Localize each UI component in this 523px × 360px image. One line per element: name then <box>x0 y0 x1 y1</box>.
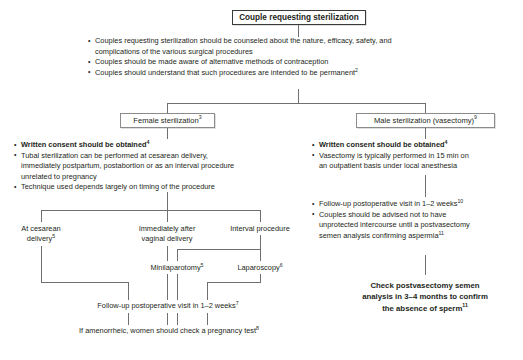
connector-split-horizontal <box>167 103 426 104</box>
bullet-text: Couples should understand that such proc… <box>95 68 355 77</box>
male-sterilization-label: Male sterilization (vasectomy)9 <box>374 116 477 125</box>
connector-female-bullets-stem <box>167 192 168 210</box>
option-line: delivery <box>27 234 52 243</box>
footnote-marker: 4 <box>445 139 448 145</box>
flowchart-canvas: Couple requesting sterilization Couples … <box>0 0 523 360</box>
footnote-marker: 5 <box>52 233 55 239</box>
list-item: Vasectomy is typically performed in 15 m… <box>312 151 522 172</box>
footnote-marker: 11 <box>462 302 467 308</box>
list-item: Written consent should be obtained4 <box>312 140 522 151</box>
footnote-marker: 8 <box>256 325 259 331</box>
connector-followup-drop-a <box>128 313 129 325</box>
bullet-line: immediately postpartum, postabortion or … <box>21 161 294 172</box>
conclusion-line: Check postvasectomy semen <box>370 281 479 290</box>
bullet-line: Tubal sterilization can be performed at … <box>21 151 294 162</box>
footnote-marker: 2 <box>355 66 358 72</box>
male-box-text: Male sterilization (vasectomy) <box>374 116 474 125</box>
bullet-text: Written consent should be obtained <box>21 140 147 149</box>
bullet-line: an outpatient basis under local anesthes… <box>319 161 522 172</box>
connector-female-box-down <box>167 128 168 139</box>
connector-vaginal-down <box>167 246 168 261</box>
female-followup-text: Follow-up postoperative visit in 1–2 wee… <box>58 301 278 311</box>
connector-female-opt3-drop <box>260 210 261 222</box>
method-text: Minilaparotomy <box>150 263 200 272</box>
female-pregnancy-test-text: If amenorrheic, women should check a pre… <box>24 326 314 336</box>
title-box-label: Couple requesting sterilization <box>239 13 359 22</box>
option-line: Interval procedure <box>230 224 290 233</box>
female-sterilization-box: Female sterilization3 <box>120 113 215 128</box>
pregnancy-test-text: If amenorrheic, women should check a pre… <box>79 326 256 335</box>
bullet-line: Couples should be made aware of alternat… <box>95 57 508 68</box>
method-minilaparotomy: Minilaparotomy5 <box>132 263 222 273</box>
connector-cesarean-down <box>41 246 42 282</box>
connector-female-opt1-drop <box>41 210 42 222</box>
footnote-marker: 7 <box>236 300 239 306</box>
option-line: Immediately after <box>139 224 196 233</box>
male-sterilization-box: Male sterilization (vasectomy)9 <box>356 113 495 128</box>
connector-counseling-stem <box>298 89 299 103</box>
list-item: Couples requesting sterilization should … <box>88 36 508 57</box>
footnote-marker: 9 <box>474 114 477 120</box>
bullet-line: Written consent should be obtained4 <box>319 140 522 151</box>
male-bullet-list-secondary: Follow-up postoperative visit in 1–2 wee… <box>312 199 523 241</box>
option-line: At cesarean <box>21 224 60 233</box>
list-item: Technique used depends largely on timing… <box>14 182 294 193</box>
list-item: Written consent should be obtained4 <box>14 140 294 151</box>
connector-laparoscopy-elbow-drop <box>207 282 208 300</box>
bullet-line: Follow-up postoperative visit in 1–2 wee… <box>319 199 523 210</box>
footnote-marker: 11 <box>439 229 444 235</box>
bullet-text: semen analysis confirming aspermia <box>319 231 439 240</box>
footnote-marker: 3 <box>199 114 202 120</box>
bullet-line: Written consent should be obtained4 <box>21 140 294 151</box>
list-item: Couples should be made aware of alternat… <box>88 57 508 68</box>
option-interval-procedure: Interval procedure <box>212 224 308 234</box>
connector-female-threeway-horizontal <box>41 210 260 211</box>
connector-interval-split-horizontal <box>177 249 261 250</box>
footnote-marker: 4 <box>147 139 150 145</box>
female-sterilization-label: Female sterilization3 <box>133 116 201 125</box>
connector-vaginal-to-followup <box>167 274 168 300</box>
connector-followup-drop-d <box>207 313 208 325</box>
bullet-line: Couples should be advised not to have <box>319 210 523 221</box>
bullet-text: Follow-up postoperative visit in 1–2 wee… <box>319 199 457 208</box>
connector-followup-drop-c <box>177 313 178 325</box>
female-bullet-list: Written consent should be obtained4 Tuba… <box>14 140 294 193</box>
connector-male-secondary-stem <box>425 255 426 275</box>
connector-laparoscopy-elbow-down <box>260 274 261 282</box>
connector-cesarean-elbow-horizontal <box>41 282 128 283</box>
male-bullet-list-primary: Written consent should be obtained4 Vase… <box>312 140 522 172</box>
bullet-line: semen analysis confirming aspermia11 <box>319 231 523 242</box>
bullet-line: complications of the various surgical pr… <box>95 47 508 58</box>
list-item: Couples should be advised not to have un… <box>312 210 523 242</box>
title-box: Couple requesting sterilization <box>232 10 366 25</box>
bullet-text: Written consent should be obtained <box>319 140 445 149</box>
connector-laparoscopy-elbow-horizontal <box>207 282 261 283</box>
connector-cesarean-elbow-drop <box>128 282 129 300</box>
connector-followup-drop-b <box>167 313 168 325</box>
female-box-text: Female sterilization <box>133 116 198 125</box>
list-item: Follow-up postoperative visit in 1–2 wee… <box>312 199 523 210</box>
conclusion-line: analysis in 3–4 months to confirm <box>362 292 488 301</box>
footnote-marker: 5 <box>201 262 204 268</box>
connector-interval-down <box>260 235 261 249</box>
bullet-line: Technique used depends largely on timing… <box>21 182 294 193</box>
conclusion-line: the absence of sperm <box>382 304 462 313</box>
method-text: Laparoscopy <box>237 263 279 272</box>
connector-laparoscopy-drop <box>260 249 261 261</box>
counseling-bullet-list: Couples requesting sterilization should … <box>88 36 508 78</box>
option-immediately-after-vaginal-delivery: Immediately after vaginal delivery <box>117 224 217 245</box>
connector-male-primary-stem <box>425 175 426 197</box>
bullet-line: Couples requesting sterilization should … <box>95 36 508 47</box>
footnote-marker: 10 <box>457 198 463 204</box>
option-line: vaginal delivery <box>142 234 193 243</box>
method-laparoscopy: Laparoscopy6 <box>220 263 300 273</box>
bullet-line: unprotected intercourse until a postvase… <box>319 220 523 231</box>
bullet-line: unrelated to pregnancy <box>21 172 294 183</box>
option-at-cesarean-delivery: At cesarean delivery5 <box>0 224 82 245</box>
list-item: Couples should understand that such proc… <box>88 68 508 79</box>
bullet-line: Couples should understand that such proc… <box>95 68 508 79</box>
connector-male-box-down <box>425 128 426 139</box>
bullet-line: Vasectomy is typically performed in 15 m… <box>319 151 522 162</box>
connector-minilap-to-followup <box>177 274 178 300</box>
followup-text: Follow-up postoperative visit in 1–2 wee… <box>97 301 235 310</box>
